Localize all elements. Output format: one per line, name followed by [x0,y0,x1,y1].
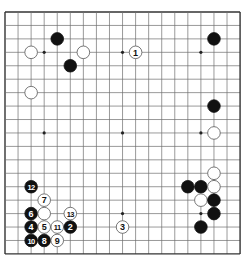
move-number-label: 2 [68,222,73,232]
black-stone [208,207,221,220]
move-number-label: 4 [29,222,34,232]
white-stone: 3 [116,221,129,234]
white-stone: 7 [38,194,51,207]
white-stone [77,46,90,59]
move-number-label: 11 [54,223,61,232]
black-stone [182,180,195,193]
star-point [121,212,124,215]
star-point [199,131,202,134]
white-stone: 5 [38,221,51,234]
black-stone [195,221,208,234]
black-stone: 10 [25,234,38,247]
white-stone: 1 [129,46,142,59]
star-point [199,212,202,215]
move-number-label: 5 [42,222,47,232]
move-number-label: 7 [42,195,47,205]
black-stone: 8 [38,234,51,247]
black-stone: 6 [25,207,38,220]
move-number-label: 6 [29,209,34,219]
move-number-label: 13 [67,210,75,219]
white-stone [25,86,38,99]
move-number-label: 10 [28,237,36,246]
black-stone [208,100,221,113]
move-number-label: 12 [28,183,36,192]
white-stone [208,167,221,180]
white-stone [208,180,221,193]
white-stone [195,194,208,207]
star-point [199,51,202,54]
black-stone: 4 [25,221,38,234]
star-point [43,131,46,134]
black-stone: 12 [25,180,38,193]
black-stone: 2 [64,221,77,234]
star-point [121,131,124,134]
black-stone [208,194,221,207]
move-number-label: 1 [133,48,138,58]
white-stone: 9 [51,234,64,247]
move-number-label: 9 [55,236,60,246]
go-board: 11276134511210893 [0,0,248,264]
black-stone [195,180,208,193]
white-stone: 13 [64,207,77,220]
white-stone: 11 [51,221,64,234]
black-stone [51,33,64,46]
white-stone [25,46,38,59]
white-stone [208,127,221,140]
black-stone [208,33,221,46]
star-point [121,51,124,54]
move-number-label: 3 [120,222,125,232]
star-point [43,51,46,54]
black-stone [64,59,77,72]
move-number-label: 8 [42,236,47,246]
white-stone [38,207,51,220]
